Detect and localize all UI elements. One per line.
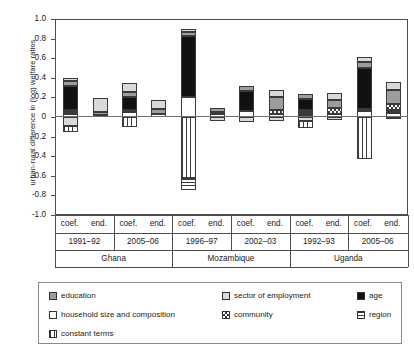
bar-segment-education_neg	[269, 117, 284, 121]
bar-segment-education	[181, 32, 196, 36]
bar-segment-region	[181, 178, 196, 191]
y-tick-mark	[51, 97, 55, 98]
y-tick-label: -1.0	[16, 210, 46, 219]
bar-segment-constant	[298, 121, 313, 128]
community-swatch	[222, 311, 230, 319]
bar-segment-age	[239, 91, 254, 112]
legend-label: age	[369, 291, 382, 300]
bar-segment-community	[298, 110, 313, 112]
age-swatch	[357, 292, 365, 300]
y-tick-mark	[51, 39, 55, 40]
bar-segment-age	[63, 86, 78, 110]
bar-segment-sector	[181, 29, 196, 32]
bar-end.-3[interactable]	[151, 19, 166, 215]
legend-item-household-size-and-composition[interactable]: household size and composition	[49, 310, 175, 319]
y-tick-label: 0.4	[16, 73, 46, 82]
bar-segment-education	[151, 109, 166, 114]
bar-segment-sector	[386, 82, 401, 90]
bar-segment-sector	[122, 83, 137, 91]
y-tick-mark	[51, 176, 55, 177]
bar-segment-constant	[122, 117, 137, 127]
bar-segment-education	[269, 97, 284, 110]
bar-segment-community	[63, 110, 78, 112]
legend-item-region[interactable]: region	[357, 310, 391, 319]
bar-segment-education	[210, 108, 225, 112]
bar-coef.-0[interactable]	[63, 19, 78, 215]
y-tick-label: 0.8	[16, 34, 46, 43]
bar-coef.-6[interactable]	[239, 19, 254, 215]
bar-coef.-4[interactable]	[181, 19, 196, 215]
bar-segment-sector	[151, 100, 166, 109]
bar-segment-education_neg	[327, 117, 342, 120]
bar-segment-education	[386, 90, 401, 104]
bar-segment-sector	[63, 78, 78, 81]
x-label-decomposition: coef.	[114, 219, 143, 228]
y-tick-mark	[51, 117, 55, 118]
x-label-country: Uganda	[290, 254, 407, 263]
legend-item-constant-terms[interactable]: constant terms	[49, 329, 113, 338]
bar-segment-community	[386, 104, 401, 110]
bar-coef.-8[interactable]	[298, 19, 313, 215]
x-label-decomposition: coef.	[231, 219, 260, 228]
x-label-decomposition: coef.	[290, 219, 319, 228]
legend-label: constant terms	[61, 329, 113, 338]
x-label-decomposition: end.	[260, 219, 289, 228]
bar-segment-education_neg	[239, 117, 254, 122]
constant-swatch	[49, 330, 57, 338]
y-tick-mark	[51, 58, 55, 59]
bar-segment-region	[357, 109, 372, 111]
bar-segment-age	[298, 99, 313, 111]
y-tick-label: -0.6	[16, 171, 46, 180]
y-tick-label: -0.4	[16, 151, 46, 160]
bar-segment-education_neg	[386, 117, 401, 119]
y-tick-mark	[51, 78, 55, 79]
x-label-decomposition: end.	[319, 219, 348, 228]
bar-coef.-10[interactable]	[357, 19, 372, 215]
bar-segment-constant	[181, 117, 196, 178]
sector-swatch	[222, 292, 230, 300]
bar-end.-1[interactable]	[93, 19, 108, 215]
bar-segment-age	[357, 68, 372, 109]
bar-segment-region	[122, 110, 137, 112]
legend-item-community[interactable]: community	[222, 310, 273, 319]
legend-item-sector-of-employment[interactable]: sector of employment	[222, 291, 310, 300]
bar-segment-education	[122, 92, 137, 97]
bar-coef.-2[interactable]	[122, 19, 137, 215]
zero-reference-line	[55, 116, 408, 117]
bar-segment-constant	[63, 126, 78, 133]
legend-label: region	[369, 310, 391, 319]
bar-segment-education	[239, 86, 254, 91]
bar-segment-community	[269, 110, 284, 114]
region-swatch	[357, 311, 365, 319]
x-label-period: 2002–03	[231, 237, 290, 246]
bar-end.-9[interactable]	[327, 19, 342, 215]
legend-label: education	[61, 291, 96, 300]
bar-end.-5[interactable]	[210, 19, 225, 215]
bar-segment-sector	[93, 98, 108, 113]
y-tick-mark	[51, 19, 55, 20]
x-axis-rule	[55, 267, 408, 268]
x-axis-edge-right	[408, 215, 409, 267]
bar-segment-sector	[327, 93, 342, 101]
bar-segment-education	[93, 112, 108, 115]
bar-segment-region	[210, 112, 225, 114]
bar-segment-education	[357, 62, 372, 68]
bar-end.-11[interactable]	[386, 19, 401, 215]
x-label-period: 2005–06	[114, 237, 173, 246]
y-tick-mark	[51, 156, 55, 157]
x-label-period: 1992–93	[290, 237, 349, 246]
legend-item-education[interactable]: education	[49, 291, 96, 300]
x-label-decomposition: coef.	[348, 219, 377, 228]
bar-segment-household	[181, 97, 196, 117]
chart-legend: educationsector of employmentagehousehol…	[38, 282, 402, 344]
x-label-decomposition: coef.	[172, 219, 201, 228]
education-swatch	[49, 292, 57, 300]
x-label-country: Ghana	[55, 254, 172, 263]
bar-end.-7[interactable]	[269, 19, 284, 215]
bar-segment-education_neg	[210, 117, 225, 121]
x-label-decomposition: end.	[378, 219, 407, 228]
legend-item-age[interactable]: age	[357, 291, 382, 300]
bar-segment-age	[181, 36, 196, 98]
x-label-period: 1991–92	[55, 237, 114, 246]
y-tick-label: 0	[16, 112, 46, 121]
